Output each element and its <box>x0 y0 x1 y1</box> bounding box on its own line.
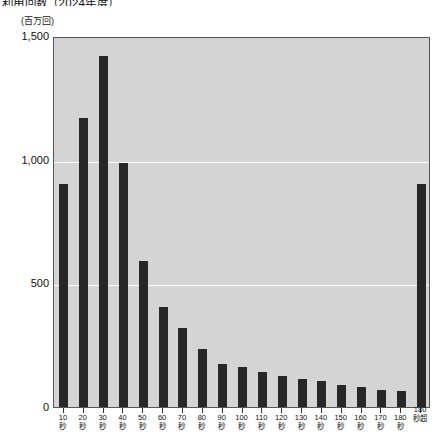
bar <box>298 379 307 407</box>
y-axis-tick-label: 1,000 <box>3 155 49 166</box>
x-axis-tick-label-unit: 秒超 <box>407 415 433 424</box>
bar <box>198 349 207 407</box>
bar <box>159 307 168 407</box>
bar <box>397 391 406 407</box>
bar <box>417 184 426 407</box>
bar <box>79 118 88 407</box>
x-axis-tick-label: 180秒超 <box>407 406 433 423</box>
bar-series <box>54 38 429 407</box>
plot-area <box>53 37 430 408</box>
bar <box>278 376 287 407</box>
bar <box>238 367 247 407</box>
y-axis-tick-label: 500 <box>3 278 49 289</box>
bar <box>119 163 128 407</box>
bar <box>178 328 187 407</box>
bar <box>258 372 267 407</box>
y-axis-tick-label: 1,500 <box>3 31 49 42</box>
bar <box>317 381 326 407</box>
bar <box>357 387 366 407</box>
y-axis-tick-label: 0 <box>3 402 49 413</box>
y-axis-tick-labels: 05001,0001,500 <box>0 0 49 441</box>
bar <box>139 261 148 407</box>
x-axis-tick-label-unit: 秒 <box>387 423 413 432</box>
bar <box>377 390 386 407</box>
bar <box>99 56 108 407</box>
bar <box>337 385 346 407</box>
bar <box>59 184 68 407</box>
bar-chart-figure: 利用回数（2024年度） (百万回) 05001,0001,500 10秒20秒… <box>0 0 440 441</box>
bar <box>218 364 227 407</box>
